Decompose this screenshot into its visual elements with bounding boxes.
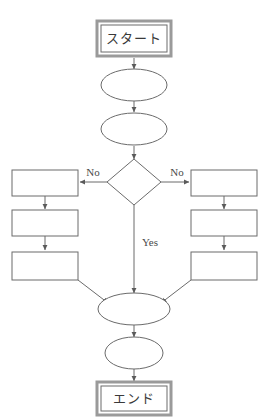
edge-label-no-right: No xyxy=(170,166,184,178)
left-3-shape xyxy=(12,252,78,280)
node-process-top-1[interactable] xyxy=(101,69,167,101)
node-right-1[interactable] xyxy=(191,170,257,196)
left-2-shape xyxy=(12,210,78,236)
process-top-2-shape xyxy=(101,113,167,145)
right-1-shape xyxy=(191,170,257,196)
node-right-2[interactable] xyxy=(191,210,257,236)
start-label: スタート xyxy=(106,31,162,46)
node-right-3[interactable] xyxy=(191,252,257,280)
node-decision[interactable] xyxy=(107,159,161,205)
flowchart-canvas: スタート xyxy=(0,0,268,420)
node-process-top-2[interactable] xyxy=(101,113,167,145)
node-process-bottom[interactable] xyxy=(105,337,163,369)
node-left-3[interactable] xyxy=(12,252,78,280)
node-left-2[interactable] xyxy=(12,210,78,236)
node-merge[interactable] xyxy=(98,293,170,325)
node-start[interactable]: スタート xyxy=(97,21,171,56)
process-top-1-shape xyxy=(101,69,167,101)
edge-right3-to-merge xyxy=(161,280,191,303)
flowchart-svg: スタート xyxy=(0,0,268,420)
decision-shape xyxy=(107,159,161,205)
right-3-shape xyxy=(191,252,257,280)
node-end[interactable]: エンド xyxy=(97,382,171,415)
edge-label-yes-center: Yes xyxy=(142,236,158,248)
node-left-1[interactable] xyxy=(12,170,78,196)
edge-label-no-left: No xyxy=(86,166,100,178)
process-bottom-shape xyxy=(105,337,163,369)
end-label: エンド xyxy=(113,391,155,406)
right-2-shape xyxy=(191,210,257,236)
edge-left3-to-merge xyxy=(78,280,108,303)
merge-shape xyxy=(98,293,170,325)
left-1-shape xyxy=(12,170,78,196)
